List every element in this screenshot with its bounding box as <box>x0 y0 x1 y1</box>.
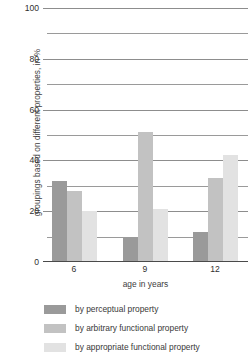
legend-item: by appropriate functional property <box>44 339 250 355</box>
bar <box>208 178 223 262</box>
legend-label: by perceptual property <box>75 304 158 314</box>
x-axis-tick-label: 12 <box>210 264 220 274</box>
legend-item: by perceptual property <box>44 301 250 317</box>
bar <box>223 155 238 262</box>
bar <box>193 232 208 262</box>
bar <box>138 132 153 262</box>
bar <box>153 209 168 262</box>
legend-swatch <box>44 343 66 352</box>
plot-area: 020406080100 <box>43 8 248 262</box>
bar-chart-figure: groupings based on different properties,… <box>0 0 252 356</box>
bar <box>123 237 138 262</box>
bar-group <box>193 8 238 262</box>
legend-label: by arbitrary functional property <box>75 323 188 333</box>
y-axis-tick-label: 80 <box>29 54 39 64</box>
bar-group <box>52 8 97 262</box>
bar <box>52 181 67 262</box>
x-axis-line <box>43 261 248 262</box>
legend-swatch <box>44 324 66 333</box>
x-axis-tick-label: 9 <box>143 264 148 274</box>
legend-label: by appropriate functional property <box>75 342 200 352</box>
y-axis-tick-label: 40 <box>29 155 39 165</box>
y-axis-tick-label: 20 <box>29 206 39 216</box>
y-axis-tick-label: 60 <box>29 105 39 115</box>
y-axis-tick-label: 100 <box>25 3 39 13</box>
chart-legend: by perceptual propertyby arbitrary funct… <box>44 301 250 356</box>
legend-item: by arbitrary functional property <box>44 320 250 336</box>
legend-swatch <box>44 305 66 314</box>
x-axis-tick-labels: 6912 <box>43 264 248 278</box>
x-axis-tick-label: 6 <box>72 264 77 274</box>
x-axis-title: age in years <box>43 279 248 289</box>
bar <box>82 211 97 262</box>
y-axis-tick-label: 0 <box>34 257 39 267</box>
bars-layer <box>43 8 248 262</box>
bar-group <box>123 8 168 262</box>
bar <box>67 191 82 262</box>
